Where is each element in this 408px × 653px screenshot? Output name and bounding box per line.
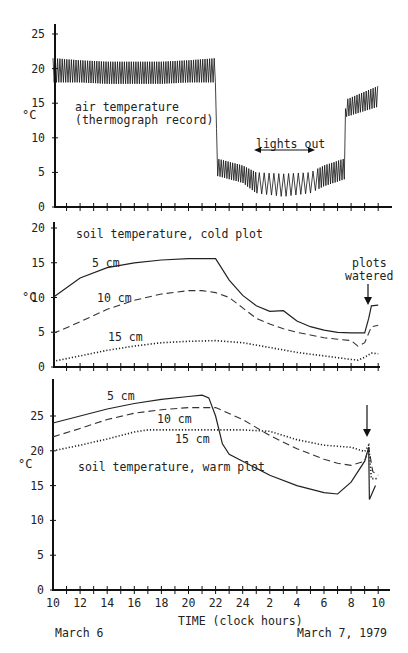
air-unit-label: °C: [22, 108, 36, 122]
plots-watered-line1: plots: [352, 256, 387, 270]
lights-out-label: lights out: [256, 137, 325, 151]
x-tick-label: 14: [100, 596, 114, 610]
y-tick-label: 5: [38, 325, 45, 339]
y-tick-label: 20: [31, 221, 45, 235]
cold-unit-label: °C: [22, 290, 36, 304]
y-tick-label: 25: [31, 27, 45, 41]
x-tick-label: 8: [348, 596, 355, 610]
x-axis-title: TIME (clock hours): [178, 614, 303, 628]
y-tick-label: 20: [30, 444, 44, 458]
y-tick-label: 0: [38, 360, 45, 374]
cold-15cm-label: 15 cm: [108, 330, 143, 344]
warm-10cm-label: 10 cm: [157, 412, 192, 426]
warm-plot-panel: 2520151050 1012141618202224246810 °C soi…: [18, 379, 390, 640]
warm-unit-label: °C: [18, 457, 32, 471]
y-tick-label: 20: [31, 62, 45, 76]
cold-plot-panel: 20151050 °C soil temperature, cold plot …: [22, 221, 393, 374]
air-temperature-trace: [53, 58, 378, 196]
x-tick-label: 12: [73, 596, 87, 610]
warm-panel-label: soil temperature, warm plot: [78, 460, 265, 474]
cold-panel-label: soil temperature, cold plot: [76, 227, 263, 241]
x-tick-label: 10: [371, 596, 385, 610]
x-tick-label: 20: [182, 596, 196, 610]
date-left: March 6: [55, 626, 104, 640]
x-tick-labels: 1012141618202224246810: [46, 596, 385, 610]
y-tick-label: 15: [30, 479, 44, 493]
y-tick-label: 10: [30, 513, 44, 527]
y-tick-label: 0: [38, 200, 45, 214]
y-tick-label: 25: [30, 409, 44, 423]
air-temperature-panel: 2520151050 °C air temperature (thermogra…: [22, 24, 392, 214]
y-tick-label: 5: [37, 548, 44, 562]
x-tick-label: 16: [127, 596, 141, 610]
y-tick-label: 10: [31, 131, 45, 145]
cold-10cm-label: 10 cm: [97, 291, 132, 305]
plots-watered-line2: watered: [345, 269, 393, 283]
x-tick-label: 10: [46, 596, 60, 610]
date-right: March 7, 1979: [297, 626, 387, 640]
x-tick-label: 4: [293, 596, 300, 610]
y-tick-label: 15: [31, 256, 45, 270]
y-tick-label: 0: [37, 583, 44, 597]
air-label-line2: (thermograph record): [75, 113, 213, 127]
figure: 2520151050 °C air temperature (thermogra…: [0, 0, 408, 653]
cold-5cm-label: 5 cm: [92, 256, 120, 270]
warm-5cm-label: 5 cm: [107, 389, 135, 403]
x-tick-label: 24: [236, 596, 250, 610]
warm-5cm-line: [53, 395, 376, 499]
cold-15cm-line: [53, 341, 378, 362]
watering-arrow: [363, 405, 371, 437]
x-tick-label: 6: [321, 596, 328, 610]
air-label-line1: air temperature: [75, 100, 179, 114]
x-tick-label: 22: [209, 596, 223, 610]
x-tick-label: 18: [154, 596, 168, 610]
warm-15cm-label: 15 cm: [175, 432, 210, 446]
plots-watered-arrow: [364, 284, 372, 305]
y-tick-label: 5: [38, 165, 45, 179]
x-tick-label: 2: [266, 596, 273, 610]
